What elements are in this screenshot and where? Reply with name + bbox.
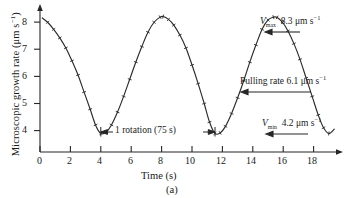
- vmax-exponent: −1: [314, 14, 321, 21]
- vmax-value: 8.3 μm s: [281, 16, 314, 26]
- x-axis-arrowhead: [336, 149, 343, 154]
- pulling-rate-label: Pulling rate 6.1 μm s: [240, 76, 319, 86]
- vmin-arrow: [266, 131, 308, 136]
- vmax-annotation: Vmax 8.3 μm s−1: [260, 14, 320, 28]
- pulling-rate-annotation: Pulling rate 6.1 μm s−1: [240, 74, 326, 86]
- x-tick-label-0: 0: [37, 155, 42, 166]
- y-axis-title-paren: ): [10, 12, 21, 16]
- figure-caption: (a): [166, 184, 178, 195]
- pulling-rate-arrow: [241, 89, 311, 94]
- x-tick-label-4: 4: [97, 155, 102, 166]
- x-tick-label-10: 10: [185, 155, 195, 166]
- vmax-arrow: [265, 29, 300, 34]
- y-tick-label-5: 5: [22, 97, 27, 108]
- vmax-subscript: max: [266, 22, 276, 28]
- x-ticks: [40, 146, 314, 152]
- y-tick-label-6: 6: [22, 70, 27, 81]
- figure-panel: Microscopic growth rate (μm s−1) 8 7 6 5…: [0, 0, 355, 198]
- x-tick-label-14: 14: [246, 155, 256, 166]
- y-tick-label-4: 4: [22, 124, 27, 135]
- x-tick-label-18: 18: [307, 155, 317, 166]
- y-tick-label-8: 8: [22, 16, 27, 27]
- x-tick-label-6: 6: [128, 155, 133, 166]
- rotation-annotation-label: 1 rotation (75 s): [115, 125, 176, 135]
- y-axis-arrowhead: [37, 4, 43, 11]
- x-tick-label-16: 16: [277, 155, 287, 166]
- y-ticks: [34, 22, 40, 131]
- y-tick-label-7: 7: [22, 43, 27, 54]
- y-axis-title-exponent: −1: [9, 16, 17, 24]
- y-axis-title-text: Microscopic growth rate (μm s: [10, 24, 21, 157]
- x-tick-label-8: 8: [158, 155, 163, 166]
- pulling-rate-exponent: −1: [319, 74, 326, 81]
- x-tick-label-12: 12: [216, 155, 226, 166]
- vmin-annotation: Vmin 4.2 μm s−1: [262, 116, 321, 130]
- vmin-value: 4.2 μm s: [282, 118, 315, 128]
- vmin-exponent: −1: [315, 116, 322, 123]
- x-tick-label-2: 2: [67, 155, 72, 166]
- x-axis-title: Time (s): [141, 170, 177, 181]
- growth-rate-chart: [0, 0, 355, 198]
- vmin-subscript: min: [268, 124, 277, 130]
- y-axis-title: Microscopic growth rate (μm s−1): [9, 9, 22, 159]
